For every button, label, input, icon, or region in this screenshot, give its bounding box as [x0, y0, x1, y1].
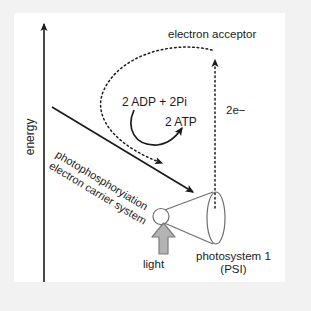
label-atp: 2 ATP: [165, 116, 197, 130]
photosystem-label-line-2: (PSI): [196, 263, 271, 276]
axis-label-energy: energy: [24, 119, 38, 156]
light-arrow-icon: [152, 223, 175, 254]
label-adp-pi: 2 ADP + 2Pi: [122, 96, 187, 110]
label-two-electrons: 2e−: [226, 104, 246, 117]
label-photosystem: photosystem 1 (PSI): [196, 250, 271, 276]
photosynthesis-diagram: energy electron acceptor 2 ADP + 2Pi 2 A…: [0, 0, 311, 311]
label-light: light: [143, 258, 164, 271]
photosystem-label-line-1: photosystem 1: [196, 250, 271, 263]
label-electron-acceptor: electron acceptor: [168, 28, 256, 41]
